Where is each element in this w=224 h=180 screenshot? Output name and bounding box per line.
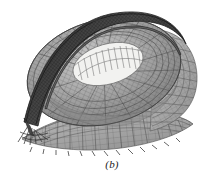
model-viewport <box>0 0 224 160</box>
figure-caption: (b) <box>0 158 224 170</box>
figure-panel: (b) <box>0 0 224 180</box>
stadium-roof-wireframe <box>0 0 224 160</box>
